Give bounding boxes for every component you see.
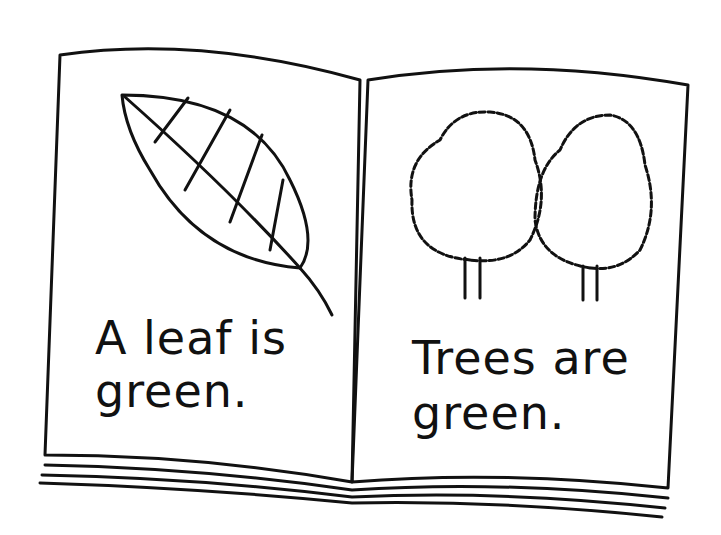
- book-illustration: A leaf is green. Trees are green.: [0, 0, 721, 535]
- left-text-line1: A leaf is: [95, 312, 287, 364]
- trees-icon: [411, 112, 652, 300]
- right-text-line2: green.: [412, 387, 565, 439]
- left-text-line2: green.: [95, 365, 248, 417]
- book-drawing: [0, 0, 721, 535]
- right-text-line1: Trees are: [412, 332, 630, 384]
- leaf-icon: [122, 95, 332, 315]
